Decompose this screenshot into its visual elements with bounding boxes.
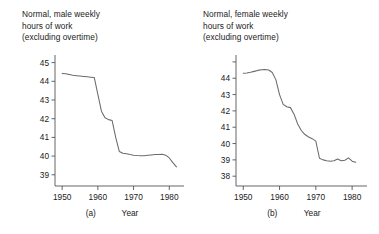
x-tick-label: 1970 [124,192,143,202]
panel-a: Normal, male weekly hours of work (exclu… [0,0,190,234]
y-tick-label: 43 [40,95,50,105]
panel-b-plot: 383940414243441950196019701980Year(b) [189,0,379,234]
y-tick-label: 43 [221,90,231,100]
x-axis-label: Year [122,208,139,218]
x-tick-label: 1950 [53,192,72,202]
y-tick-label: 42 [221,106,231,116]
y-tick-label: 45 [40,58,50,68]
data-line-b [243,69,355,162]
y-tick-label: 40 [221,139,231,149]
y-tick-label: 41 [221,122,231,132]
panel-a-plot: 394041424344451950196019701980Year(a) [0,0,190,234]
y-tick-label: 38 [221,171,231,181]
panel-letter-b: (b) [267,208,277,218]
figure-two-panel-line-charts: Normal, male weekly hours of work (exclu… [0,0,379,234]
panel-b: Normal, female weekly hours of work (exc… [189,0,379,234]
y-tick-label: 42 [40,114,50,124]
y-tick-label: 41 [40,132,50,142]
x-tick-label: 1980 [343,192,362,202]
x-tick-label: 1970 [307,192,326,202]
x-axis-label: Year [304,208,321,218]
y-tick-label: 39 [40,170,50,180]
panel-letter-a: (a) [86,208,96,218]
data-line-a [62,73,176,166]
y-tick-label: 40 [40,151,50,161]
y-tick-label: 44 [221,73,231,83]
x-tick-label: 1960 [89,192,108,202]
x-tick-label: 1960 [270,192,289,202]
x-tick-label: 1950 [234,192,253,202]
y-tick-label: 39 [221,155,231,165]
x-tick-label: 1980 [160,192,179,202]
y-tick-label: 44 [40,76,50,86]
